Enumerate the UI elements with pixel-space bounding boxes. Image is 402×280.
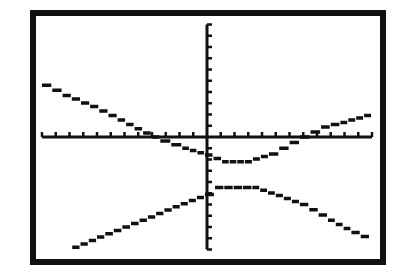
lower-branch-curve	[72, 188, 369, 248]
graph-canvas	[0, 0, 402, 280]
calculator-graph-screen	[0, 0, 402, 280]
